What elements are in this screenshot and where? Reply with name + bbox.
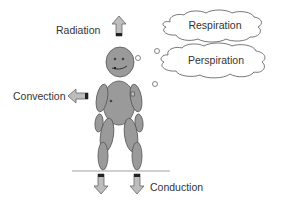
convection-label: Convection [13,90,66,102]
conduction-arrow-left-icon [94,174,108,194]
thought-bubble-small [155,49,160,54]
convection-arrow-icon [68,89,88,103]
thought-bubble-small [136,56,141,61]
conduction-label: Conduction [150,181,203,193]
respiration-label: Respiration [180,19,250,31]
perspiration-label: Perspiration [178,54,254,66]
body-patch [131,92,135,96]
radiation-arrow-icon [112,16,126,36]
heat-loss-diagram: Radiation Convection Conduction Respirat… [0,0,290,206]
body-spot [110,100,113,103]
conduction-arrow-right-icon [130,174,144,194]
human-figure [94,47,144,170]
radiation-label: Radiation [56,24,100,36]
thought-bubble-small [153,82,158,87]
